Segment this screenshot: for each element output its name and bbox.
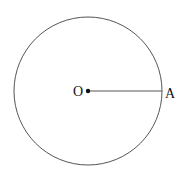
- center-label: O: [73, 84, 83, 99]
- center-point: [86, 89, 90, 93]
- point-a-label: A: [165, 86, 176, 101]
- circle-diagram: O A: [0, 0, 189, 178]
